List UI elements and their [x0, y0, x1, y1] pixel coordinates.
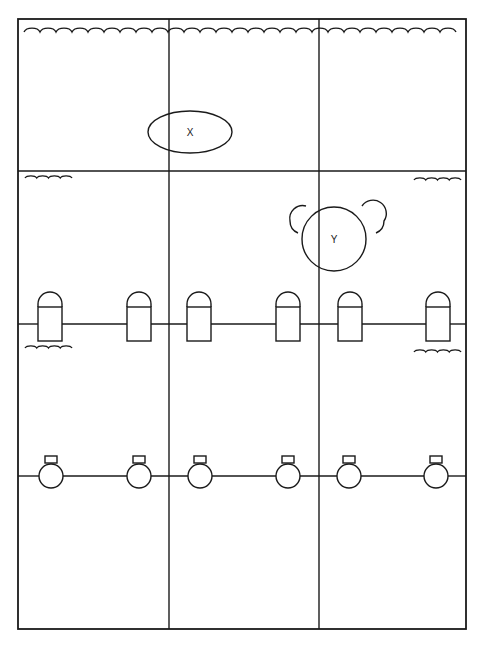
arc-right-icon	[362, 200, 386, 233]
wave-upper-left-icon	[25, 176, 72, 178]
small-waves	[25, 176, 461, 352]
wave-upper-right-icon	[414, 178, 461, 180]
object-x: X	[148, 111, 232, 153]
bottle-icon	[187, 292, 211, 341]
bulb-row	[18, 456, 466, 488]
bulb-icon	[276, 456, 300, 488]
wave-lower-left-icon	[25, 346, 72, 348]
bottle-row	[18, 292, 466, 341]
bulb-icon	[337, 456, 361, 488]
bulb-icon	[424, 456, 448, 488]
top-wave-line	[24, 28, 456, 32]
diagram-canvas: X Y	[0, 0, 482, 649]
label-x: X	[187, 127, 194, 138]
bottle-icon	[338, 292, 362, 341]
bottle-icon	[276, 292, 300, 341]
bulb-icon	[127, 456, 151, 488]
wave-lower-right-icon	[414, 350, 461, 352]
bottle-icon	[127, 292, 151, 341]
object-y: Y	[290, 200, 387, 271]
bulb-icon	[188, 456, 212, 488]
bulb-icon	[39, 456, 63, 488]
bottle-icon	[426, 292, 450, 341]
label-y: Y	[331, 234, 338, 245]
bottle-icon	[38, 292, 62, 341]
